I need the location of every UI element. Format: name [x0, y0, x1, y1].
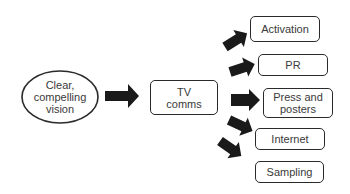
arrow-to-internet-icon [225, 111, 257, 140]
activation-box: Activation [250, 16, 320, 42]
sampling-box: Sampling [255, 161, 324, 183]
press-posters-box: Press and posters [263, 88, 333, 118]
pr-box: PR [258, 54, 328, 76]
arrow-vision-to-tv-icon [105, 84, 139, 108]
vision-label: Clear, compelling vision [22, 71, 98, 123]
arrow-to-press-icon [231, 89, 260, 111]
internet-box: Internet [255, 128, 325, 150]
arrow-to-sampling-icon [214, 133, 247, 164]
tv-comms-box: TV comms [150, 80, 218, 115]
arrow-to-pr-icon [227, 54, 258, 81]
arrow-to-activation-icon [220, 25, 253, 56]
